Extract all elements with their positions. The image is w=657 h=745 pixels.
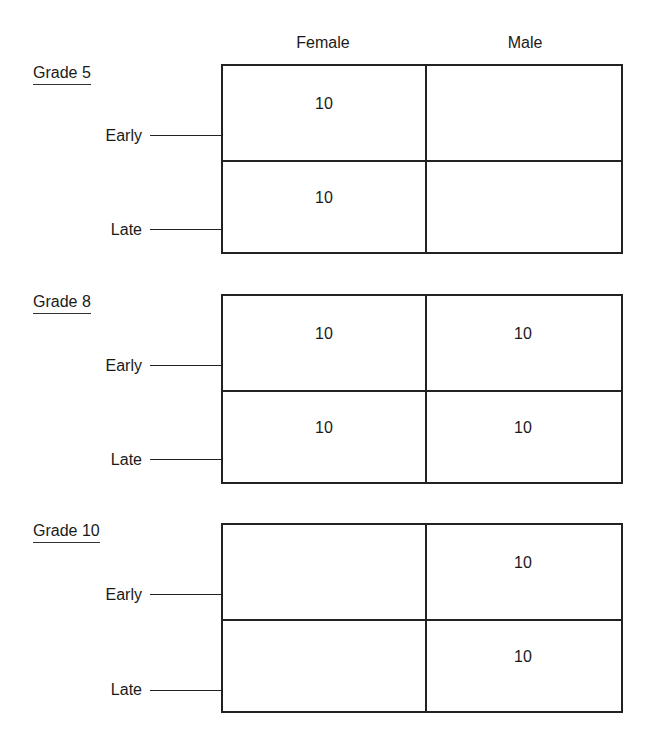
row-label-late: Late [27, 451, 142, 469]
row-label-late: Late [27, 681, 142, 699]
connector-line [150, 459, 222, 460]
grade-label: Grade 8 [33, 293, 91, 314]
cell-early-female [223, 525, 425, 619]
cell-late-male: 10 [425, 390, 621, 482]
cell-late-female: 10 [223, 160, 425, 252]
grade-label: Grade 10 [33, 522, 100, 543]
grid-divider-vertical [425, 525, 427, 711]
row-label-early: Early [27, 127, 142, 145]
grid-divider-horizontal [223, 160, 621, 162]
cell-late-female: 10 [223, 390, 425, 482]
grid-divider-vertical [425, 66, 427, 252]
column-header-male: Male [425, 34, 625, 52]
design-grid: 10 10 10 10 [221, 294, 623, 484]
cell-early-female: 10 [223, 66, 425, 160]
row-label-early: Early [27, 357, 142, 375]
connector-line [150, 594, 222, 595]
grade-label: Grade 5 [33, 64, 91, 85]
cell-late-female [223, 619, 425, 711]
cell-early-male [425, 66, 621, 160]
design-grid: 10 10 [221, 523, 623, 713]
grid-divider-horizontal [223, 390, 621, 392]
cell-late-male [425, 160, 621, 252]
grid-divider-vertical [425, 296, 427, 482]
cell-early-female: 10 [223, 296, 425, 390]
grid-divider-horizontal [223, 619, 621, 621]
design-grid: 10 10 [221, 64, 623, 254]
cell-early-male: 10 [425, 296, 621, 390]
connector-line [150, 229, 222, 230]
connector-line [150, 690, 222, 691]
cell-late-male: 10 [425, 619, 621, 711]
column-header-female: Female [223, 34, 423, 52]
connector-line [150, 135, 222, 136]
row-label-early: Early [27, 586, 142, 604]
cell-early-male: 10 [425, 525, 621, 619]
connector-line [150, 365, 222, 366]
row-label-late: Late [27, 221, 142, 239]
